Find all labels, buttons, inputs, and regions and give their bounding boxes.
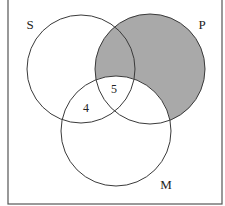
- region-label-s-m: 4: [83, 101, 89, 115]
- set-label-m: M: [160, 177, 172, 192]
- shaded-region-p-minus-m: [0, 0, 225, 206]
- set-label-p: P: [198, 17, 205, 32]
- set-label-s: S: [26, 17, 33, 32]
- region-label-s-p-m: 5: [111, 82, 117, 96]
- venn-diagram: S P M 5 4: [0, 0, 225, 206]
